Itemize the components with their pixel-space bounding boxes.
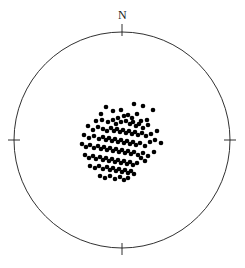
data-point [141,104,146,109]
data-point [152,150,157,155]
data-point [86,124,91,129]
data-point [99,112,104,117]
data-point [138,141,143,146]
data-point [126,113,131,118]
data-point [93,166,98,171]
data-point [87,136,92,141]
data-point [141,126,146,131]
data-point [124,119,129,124]
data-point [122,114,127,119]
data-point [105,129,110,134]
data-point [83,153,88,158]
data-point [132,102,137,107]
data-point [132,172,137,177]
data-point [88,164,93,169]
data-point [94,157,99,162]
data-point [132,150,137,155]
data-point [137,122,142,127]
data-point [94,119,99,124]
data-point [141,151,146,156]
data-point [101,167,106,172]
data-point [103,176,108,181]
data-point [155,129,160,134]
data-point [135,161,140,166]
data-point [139,156,144,161]
data-point [148,140,153,145]
stereonet-figure: N [0,0,245,268]
data-point [140,131,145,136]
data-point [131,120,136,125]
data-point [98,174,103,179]
data-point [143,144,148,149]
data-point [159,141,164,146]
stereonet-plot-area [0,0,245,268]
data-point [146,154,151,159]
data-point [149,132,154,137]
data-point [96,125,101,130]
data-point [80,142,85,147]
data-point [108,174,113,179]
data-point [104,105,109,110]
data-point [82,133,87,138]
data-point [146,123,151,128]
data-point [92,134,97,139]
data-point [130,116,135,121]
data-point [97,164,102,169]
data-point [118,175,123,180]
data-point [119,108,124,113]
data-point [134,143,139,148]
data-point [88,143,93,148]
data-point [111,118,116,123]
data-point [145,118,150,123]
data-point [100,118,105,123]
data-point [151,108,156,113]
data-point [111,109,116,114]
data-point-group [80,102,164,183]
data-point [97,137,102,142]
data-point [131,163,136,168]
data-point [119,120,124,125]
data-point [101,127,106,132]
data-point [122,178,127,183]
data-point [84,145,89,150]
data-point [116,116,121,121]
data-point [153,138,158,143]
data-point [114,122,119,127]
data-point [87,156,92,161]
data-point [106,120,111,125]
data-point [143,159,148,164]
data-point [92,146,97,151]
data-point [144,134,149,139]
data-point [113,177,118,182]
data-point [91,128,96,133]
data-point [126,176,131,181]
data-point [135,112,140,117]
data-point [136,133,141,138]
